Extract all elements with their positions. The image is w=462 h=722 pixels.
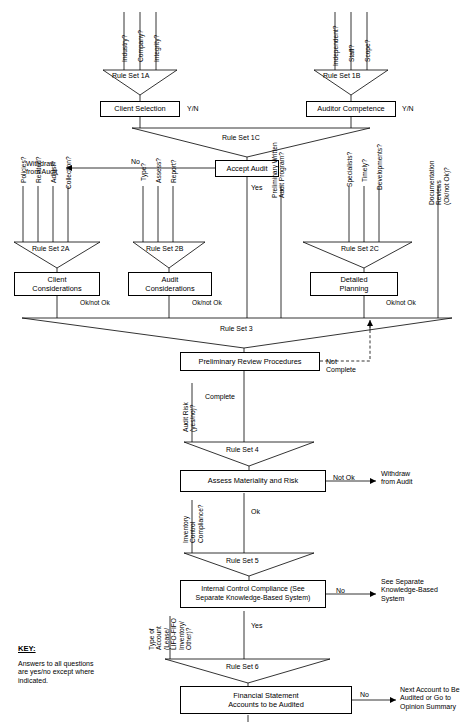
ruleset-label-3: Rule Set 3 bbox=[220, 325, 253, 333]
edge-label-no-accept: No bbox=[131, 158, 140, 166]
edge-label-ok-not-ok-2: Ok/not Ok bbox=[192, 299, 222, 307]
feeder-label-type-of-account: Type of Account (Lease/ LIFO-FIFO Invent… bbox=[148, 618, 192, 650]
input-label-collection: Collection? bbox=[65, 156, 72, 189]
input-label-developments: Developments? bbox=[376, 144, 383, 190]
ruleset-label-1a: Rule Set 1A bbox=[112, 72, 149, 80]
edge-label-no-internal: No bbox=[336, 587, 345, 595]
feeder-label-inventory-control-compliance: Inventory Control Compliance? bbox=[182, 505, 204, 543]
box-accept-audit[interactable]: Accept Audit bbox=[215, 160, 279, 177]
edge-label-ok-not-ok-3: Ok/not Ok bbox=[386, 299, 416, 307]
feeders-2a bbox=[23, 186, 68, 242]
edge-label-not-complete: Not Complete bbox=[326, 358, 356, 375]
edge-label-ok-materiality: Ok bbox=[251, 508, 260, 516]
input-label-policies: Policies? bbox=[20, 157, 27, 183]
input-label-report: Report? bbox=[170, 160, 177, 183]
ruleset-label-2a: Rule Set 2A bbox=[32, 245, 69, 253]
feeder-label-documentation-reviews: Documentation Reviews (Ok/not Ok)? bbox=[428, 161, 450, 205]
box-detailed-planning[interactable]: Detailed Planning bbox=[310, 272, 398, 296]
ruleset-label-1c: Rule Set 1C bbox=[222, 134, 260, 142]
edge-label-yn-auditor: Y/N bbox=[402, 105, 414, 113]
input-label-related: Related? bbox=[35, 157, 42, 183]
edge-label-ok-not-ok-1: Ok/not Ok bbox=[80, 299, 110, 307]
ruleset-label-2c: Rule Set 2C bbox=[341, 245, 379, 253]
ruleset-label-5: Rule Set 5 bbox=[226, 557, 259, 565]
edge-label-not-ok-materiality: Not Ok bbox=[333, 474, 355, 482]
box-assess-materiality-and-risk[interactable]: Assess Materiality and Risk bbox=[180, 470, 326, 492]
input-label-integrity: Integrity? bbox=[153, 35, 160, 62]
box-audit-considerations[interactable]: Audit Considerations bbox=[128, 272, 212, 296]
key-body: Answers to all questions are yes/no exce… bbox=[18, 660, 94, 685]
input-label-independent: Independent? bbox=[332, 26, 339, 66]
box-preliminary-review-procedures[interactable]: Preliminary Review Procedures bbox=[180, 352, 320, 371]
edge-label-yn-client: Y/N bbox=[187, 105, 199, 113]
feeder-label-audit-risk: Audit Risk (yes/no)? bbox=[182, 402, 197, 432]
box-financial-statement-accounts[interactable]: Financial Statement Accounts to be Audit… bbox=[180, 686, 352, 714]
terminal-withdraw-from-audit-2: Withdraw from Audit bbox=[381, 470, 413, 487]
input-label-adjust: Adjust? bbox=[50, 161, 57, 183]
input-label-scope: Scope? bbox=[364, 40, 371, 62]
ruleset-label-2b: Rule Set 2B bbox=[146, 245, 183, 253]
input-label-timely: Timely? bbox=[361, 159, 368, 182]
input-label-assess: Assess? bbox=[155, 158, 162, 183]
terminal-see-separate-system: See Separate Knowledge-Based System bbox=[381, 578, 438, 603]
box-internal-control-compliance[interactable]: Internal Control Compliance (See Separat… bbox=[180, 580, 326, 608]
feeder-label-prelim-written-audit-program: Preliminary Written Audit Program? bbox=[271, 142, 286, 198]
ruleset-label-1b: Rule Set 1B bbox=[323, 72, 360, 80]
input-label-staff: Staff? bbox=[348, 45, 355, 62]
feeders-2c bbox=[349, 186, 379, 242]
feedback-not-complete bbox=[320, 323, 370, 361]
edge-label-complete: Complete bbox=[205, 393, 235, 401]
input-label-company: Company? bbox=[137, 30, 144, 62]
edge-label-yes-accept: Yes bbox=[251, 184, 262, 192]
ruleset-label-6: Rule Set 6 bbox=[226, 663, 259, 671]
input-label-specialists: Specialists? bbox=[346, 152, 353, 187]
terminal-next-account: Next Account to Be Audited or Go to Opin… bbox=[400, 686, 460, 711]
box-client-considerations[interactable]: Client Considerations bbox=[14, 272, 100, 296]
box-client-selection[interactable]: Client Selection bbox=[100, 101, 180, 117]
ruleset-label-4: Rule Set 4 bbox=[226, 446, 259, 454]
feeders-2b bbox=[143, 186, 173, 242]
input-label-industry: Industry? bbox=[121, 35, 128, 62]
key-heading: KEY: bbox=[18, 645, 36, 654]
edge-label-yes-internal: Yes bbox=[251, 622, 262, 630]
edge-label-no-financial: No bbox=[360, 691, 369, 699]
input-label-type: Type? bbox=[140, 163, 147, 181]
funnel-1c bbox=[132, 128, 370, 157]
box-auditor-competence[interactable]: Auditor Competence bbox=[306, 101, 396, 117]
